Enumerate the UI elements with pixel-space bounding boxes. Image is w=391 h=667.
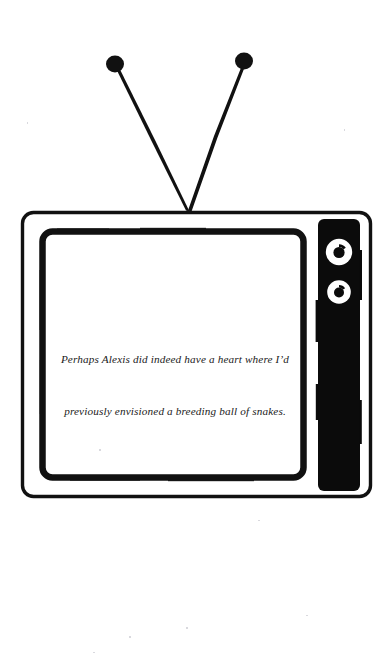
tuner-knob-upper[interactable] (326, 239, 352, 265)
antenna-tip-left (106, 56, 124, 73)
antenna-tip-right (235, 53, 253, 70)
tv-screen[interactable] (47, 236, 299, 473)
illustration-canvas (0, 0, 391, 667)
tuner-knob-lower[interactable] (327, 280, 351, 304)
